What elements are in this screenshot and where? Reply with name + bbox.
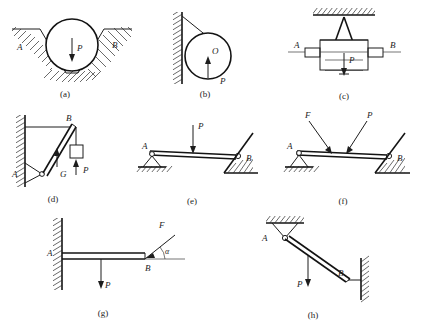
label-g-point-b: B [145, 263, 151, 273]
panel-g: A B F α P (g) [45, 208, 225, 331]
caption-f: (f) [339, 196, 348, 206]
panel-d: A B G P (d) [0, 105, 120, 210]
label-d-load-p: P [82, 165, 89, 175]
label-a-load-p: P [76, 43, 83, 53]
label-f-point-b: B [397, 153, 403, 163]
label-c-load-p: P [348, 55, 355, 65]
panel-e: A B P (e) [120, 105, 270, 210]
label-g-angle-alpha: α [165, 247, 170, 256]
label-g-point-a: A [46, 248, 53, 258]
label-h-point-b: B [338, 268, 344, 278]
beam-g [62, 253, 145, 259]
label-d-weight-g: G [60, 169, 67, 179]
caption-a: (a) [60, 89, 70, 99]
wall-b [171, 8, 184, 86]
load-arrow-p-e [190, 125, 196, 154]
arrow-p-d [73, 159, 79, 175]
label-g-force-f: F [158, 220, 165, 230]
load-arrow-p-h [305, 256, 311, 287]
beam-f [297, 151, 387, 159]
roller-support-h [348, 256, 369, 302]
caption-d: (d) [48, 194, 59, 204]
load-arrow-p-g [98, 259, 104, 289]
ceiling-c [311, 7, 378, 16]
panel-h: A B P (h) [228, 208, 408, 331]
label-e-load-p: P [197, 121, 204, 131]
caption-b: (b) [200, 89, 211, 99]
label-c-point-b: B [390, 40, 396, 50]
caption-e: (e) [187, 196, 197, 206]
label-f-point-a: A [286, 141, 293, 151]
shaft-left-c [288, 48, 320, 57]
panel-a: A B P (a) [0, 0, 145, 105]
pin-support-e [136, 152, 172, 173]
label-e-point-a: A [141, 141, 148, 151]
label-c-point-a: A [293, 40, 300, 50]
label-g-load-p: P [104, 280, 111, 290]
label-a-point-a: A [16, 42, 23, 52]
label-d-point-b: B [66, 113, 72, 123]
caption-c: (c) [339, 91, 349, 101]
label-h-point-a: A [261, 233, 268, 243]
shaft-right-c [368, 48, 401, 57]
caption-g: (g) [98, 308, 109, 318]
panel-b: O P (b) [145, 0, 273, 105]
panel-f: A B F P (f) [267, 105, 423, 210]
hanging-block-d [70, 127, 83, 158]
pin-bracket-d [25, 163, 44, 183]
label-f-force-p: P [366, 110, 373, 120]
figure-sheet: A B P (a) [0, 0, 423, 331]
label-d-point-a: A [11, 169, 18, 179]
label-e-point-b: B [246, 153, 252, 163]
notch-bottom [44, 70, 100, 82]
force-arrow-p-f [346, 121, 367, 154]
label-b-load-p: P [219, 76, 226, 86]
label-b-center-o: O [212, 46, 219, 56]
label-a-point-b: B [112, 40, 118, 50]
panel-c: A B P (c) [273, 0, 423, 105]
label-f-force-f: F [304, 110, 311, 120]
force-arrow-f-f [309, 121, 332, 154]
caption-h: (h) [308, 310, 319, 320]
label-h-load-p: P [296, 279, 303, 289]
ceiling-h [264, 215, 306, 241]
pin-support-f [283, 151, 319, 173]
